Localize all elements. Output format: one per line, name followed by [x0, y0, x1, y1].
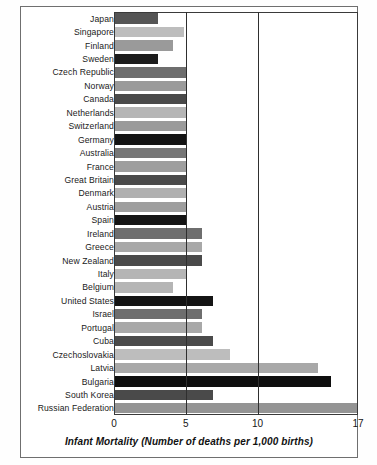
category-label: Denmark [78, 188, 114, 198]
x-axis-title: Infant Mortality (Number of deaths per 1… [20, 436, 358, 447]
bar-row: Great Britain [20, 173, 358, 186]
category-label: Belgium [82, 282, 114, 292]
bar-row: Sweden [20, 52, 358, 65]
bar-track [114, 267, 358, 280]
bar [114, 390, 213, 400]
bar-track [114, 133, 358, 146]
category-label: Spain [92, 215, 114, 225]
bar-row: Australia [20, 146, 358, 159]
bar [114, 376, 331, 386]
bar [114, 349, 230, 359]
bar-row: Netherlands [20, 106, 358, 119]
chart-page: JapanSingaporeFinlandSwedenCzech Republi… [0, 0, 377, 465]
bar-row: United States [20, 294, 358, 307]
bar-row: Finland [20, 39, 358, 52]
bar-row: Germany [20, 133, 358, 146]
bar-track [114, 281, 358, 294]
bar-rows: JapanSingaporeFinlandSwedenCzech Republi… [20, 12, 358, 415]
bar-track [114, 120, 358, 133]
bar-row: New Zealand [20, 254, 358, 267]
bar [114, 242, 202, 252]
category-label: Switzerland [68, 121, 114, 131]
bar [114, 67, 186, 77]
x-axis-tick-label: 5 [183, 418, 189, 429]
category-label: France [87, 162, 114, 172]
category-label: Germany [78, 135, 114, 145]
category-label: New Zealand [62, 256, 114, 266]
category-label: Austria [87, 202, 114, 212]
bar-row: Switzerland [20, 120, 358, 133]
bar-row: Cuba [20, 335, 358, 348]
bar-track [114, 12, 358, 25]
bar-row: Norway [20, 79, 358, 92]
category-label: Netherlands [67, 108, 114, 118]
category-label: Australia [80, 148, 114, 158]
bar-track [114, 294, 358, 307]
bar [114, 363, 318, 373]
bar [114, 54, 158, 64]
bar-track [114, 308, 358, 321]
bar-row: South Korea [20, 388, 358, 401]
bar-track [114, 321, 358, 334]
bar-row: Bulgaria [20, 375, 358, 388]
bar-track [114, 200, 358, 213]
bar-track [114, 348, 358, 361]
bar-track [114, 375, 358, 388]
bar-row: Czech Republic [20, 66, 358, 79]
bar [114, 121, 186, 131]
infant-mortality-bar-chart: JapanSingaporeFinlandSwedenCzech Republi… [20, 6, 358, 458]
category-label: Japan [90, 14, 114, 24]
bar-track [114, 361, 358, 374]
category-label: Latvia [90, 363, 114, 373]
category-label: Greece [85, 242, 114, 252]
bar [114, 94, 186, 104]
bar-row: Greece [20, 240, 358, 253]
bar [114, 13, 158, 23]
bar-row: Portugal [20, 321, 358, 334]
category-label: Great Britain [64, 175, 114, 185]
bar-track [114, 66, 358, 79]
bar-row: Czechoslovakia [20, 348, 358, 361]
category-label: Bulgaria [82, 377, 114, 387]
bar [114, 269, 186, 279]
bar-track [114, 388, 358, 401]
bar [114, 255, 202, 265]
bar-row: Singapore [20, 25, 358, 38]
category-label: Finland [85, 41, 114, 51]
category-label: Czech Republic [52, 67, 114, 77]
bar-row: Canada [20, 93, 358, 106]
bar-row: Israel [20, 308, 358, 321]
bar-track [114, 79, 358, 92]
bar [114, 309, 202, 319]
bar-track [114, 160, 358, 173]
bar [114, 215, 186, 225]
category-label: Ireland [87, 229, 114, 239]
category-label: Canada [83, 94, 114, 104]
bar-track [114, 335, 358, 348]
bar-track [114, 227, 358, 240]
bar [114, 175, 186, 185]
category-label: Czechoslovakia [52, 350, 114, 360]
bar [114, 148, 186, 158]
bar-track [114, 187, 358, 200]
x-axis-tick-label: 0 [111, 418, 117, 429]
category-label: Singapore [74, 27, 114, 37]
category-label: South Korea [65, 390, 114, 400]
category-label: Israel [92, 309, 114, 319]
bar-track [114, 240, 358, 253]
bar-track [114, 146, 358, 159]
bar-row: Japan [20, 12, 358, 25]
bar-row: Latvia [20, 361, 358, 374]
bar-row: Spain [20, 214, 358, 227]
bar-row: Belgium [20, 281, 358, 294]
bar-track [114, 214, 358, 227]
bar-row: Ireland [20, 227, 358, 240]
bar-track [114, 254, 358, 267]
bar [114, 202, 186, 212]
bar [114, 161, 186, 171]
bar-row: Russian Federation [20, 402, 358, 415]
bar [114, 403, 358, 413]
gridline [258, 12, 259, 415]
bar-track [114, 93, 358, 106]
bar [114, 81, 186, 91]
